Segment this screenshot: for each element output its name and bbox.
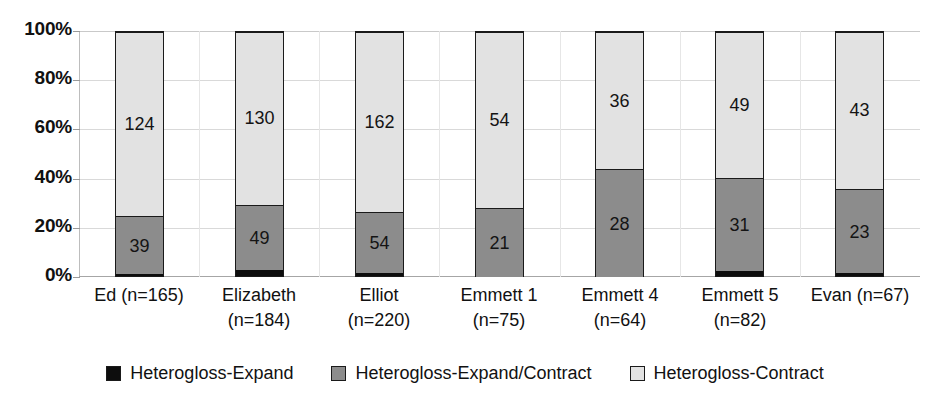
x-axis-label-evan-n-67-: Evan (n=67) <box>800 283 920 308</box>
bar-segment-value-label: 23 <box>849 223 869 241</box>
y-axis-labels: 0%20%40%60%80%100% <box>0 0 72 416</box>
category-separator <box>800 31 801 277</box>
bar-segment-value-label: 130 <box>244 109 274 127</box>
x-axis-label-line1: Evan (n=67) <box>811 285 910 305</box>
legend-label: Heterogloss-Expand/Contract <box>355 363 591 384</box>
y-axis-tick-label-100%: 100% <box>2 18 72 40</box>
bar-segment-value-label: 31 <box>729 216 749 234</box>
y-axis-tick-label-60%: 60% <box>2 116 72 138</box>
bar-segment-heterogloss-contract[interactable]: 43 <box>835 31 884 189</box>
category-separator <box>680 31 681 277</box>
y-axis-tick <box>73 80 80 81</box>
x-axis-label-line1: Elizabeth <box>222 285 296 305</box>
category-separator <box>319 31 320 277</box>
x-axis-label-line1: Ed (n=165) <box>94 285 184 305</box>
x-axis-label-line2: (n=184) <box>199 308 319 333</box>
bar-top-border <box>475 31 524 33</box>
bar-segment-heterogloss-expand-contract[interactable]: 49 <box>235 205 284 270</box>
bar-elizabeth-n-184-[interactable]: 49130 <box>235 31 284 277</box>
bar-segment-heterogloss-expand-contract[interactable]: 39 <box>115 216 164 274</box>
y-axis-tick-label-0%: 0% <box>2 264 72 286</box>
category-separator <box>439 31 440 277</box>
x-axis-label-emmett-4-n-64-: Emmett 4(n=64) <box>560 283 680 333</box>
bar-top-border <box>235 31 284 33</box>
legend-swatch-icon <box>106 366 121 381</box>
bar-top-border <box>715 31 764 33</box>
bar-segment-heterogloss-contract[interactable]: 54 <box>475 31 524 208</box>
bar-segment-value-label: 21 <box>489 234 509 252</box>
bar-segment-heterogloss-contract[interactable]: 162 <box>355 31 404 212</box>
bar-evan-n-67-[interactable]: 2343 <box>835 31 884 277</box>
bar-segment-value-label: 54 <box>489 111 509 129</box>
bar-emmett-1-n-75-[interactable]: 2154 <box>475 31 524 277</box>
bar-top-border <box>835 31 884 33</box>
x-axis-label-line2: (n=220) <box>319 308 439 333</box>
x-axis-label-line2: (n=75) <box>439 308 559 333</box>
legend-swatch-icon <box>630 366 645 381</box>
stacked-bar-chart: 0%20%40%60%80%100% 391244913054162215428… <box>0 0 930 416</box>
y-axis-tick <box>73 228 80 229</box>
bar-segment-value-label: 49 <box>249 229 269 247</box>
legend-item-heterogloss-expand[interactable]: Heterogloss-Expand <box>106 363 293 384</box>
x-axis-category-labels: Ed (n=165)Elizabeth(n=184)Elliot(n=220)E… <box>79 283 920 345</box>
bar-segment-heterogloss-expand[interactable] <box>835 273 884 277</box>
x-axis-label-line2: (n=64) <box>560 308 680 333</box>
bar-ed-n-165-[interactable]: 39124 <box>115 31 164 277</box>
bar-segment-heterogloss-contract[interactable]: 124 <box>115 31 164 216</box>
x-axis-label-elizabeth-n-184-: Elizabeth(n=184) <box>199 283 319 333</box>
bar-segment-value-label: 39 <box>129 237 149 255</box>
x-axis-label-line2: (n=82) <box>680 308 800 333</box>
bar-top-border <box>355 31 404 33</box>
legend-swatch-icon <box>331 366 346 381</box>
x-axis-label-emmett-1-n-75-: Emmett 1(n=75) <box>439 283 559 333</box>
bar-segment-value-label: 162 <box>364 113 394 131</box>
bar-segment-heterogloss-expand[interactable] <box>355 273 404 277</box>
bar-segment-value-label: 36 <box>609 92 629 110</box>
bar-segment-value-label: 28 <box>609 215 629 233</box>
bar-segment-value-label: 49 <box>729 96 749 114</box>
legend-label: Heterogloss-Expand <box>130 363 293 384</box>
chart-legend: Heterogloss-ExpandHeterogloss-Expand/Con… <box>0 356 930 390</box>
bar-segment-heterogloss-contract[interactable]: 130 <box>235 31 284 205</box>
legend-label: Heterogloss-Contract <box>654 363 824 384</box>
x-axis-label-line1: Emmett 5 <box>701 285 778 305</box>
x-axis-label-line1: Elliot <box>359 285 398 305</box>
legend-item-heterogloss-contract[interactable]: Heterogloss-Contract <box>630 363 824 384</box>
bar-segment-heterogloss-expand[interactable] <box>235 270 284 277</box>
x-axis-label-ed-n-165-: Ed (n=165) <box>79 283 199 308</box>
y-axis-tick-label-40%: 40% <box>2 166 72 188</box>
category-separator <box>199 31 200 277</box>
bar-segment-heterogloss-expand-contract[interactable]: 31 <box>715 178 764 271</box>
bar-segment-heterogloss-expand[interactable] <box>715 271 764 277</box>
bar-segment-heterogloss-expand-contract[interactable]: 28 <box>595 169 644 277</box>
plot-area: 3912449130541622154283631492343 <box>79 31 920 277</box>
bar-segment-value-label: 54 <box>369 234 389 252</box>
y-axis-tick <box>73 277 80 278</box>
bar-segment-heterogloss-contract[interactable]: 36 <box>595 31 644 169</box>
x-axis-label-line1: Emmett 1 <box>460 285 537 305</box>
category-separator <box>560 31 561 277</box>
bar-segment-heterogloss-contract[interactable]: 49 <box>715 31 764 178</box>
y-axis-tick <box>73 129 80 130</box>
y-axis-tick <box>73 179 80 180</box>
x-axis-label-line1: Emmett 4 <box>581 285 658 305</box>
bar-segment-heterogloss-expand-contract[interactable]: 23 <box>835 189 884 273</box>
y-axis-tick-label-80%: 80% <box>2 67 72 89</box>
bar-segment-value-label: 43 <box>849 101 869 119</box>
bar-elliot-n-220-[interactable]: 54162 <box>355 31 404 277</box>
bar-emmett-5-n-82-[interactable]: 3149 <box>715 31 764 277</box>
x-axis-label-emmett-5-n-82-: Emmett 5(n=82) <box>680 283 800 333</box>
bar-segment-heterogloss-expand-contract[interactable]: 21 <box>475 208 524 277</box>
legend-item-heterogloss-expand-contract[interactable]: Heterogloss-Expand/Contract <box>331 363 591 384</box>
y-axis-tick <box>73 31 80 32</box>
bar-top-border <box>115 31 164 33</box>
bar-top-border <box>595 31 644 33</box>
x-axis-label-elliot-n-220-: Elliot(n=220) <box>319 283 439 333</box>
bar-emmett-4-n-64-[interactable]: 2836 <box>595 31 644 277</box>
bar-segment-heterogloss-expand-contract[interactable]: 54 <box>355 212 404 272</box>
bar-segment-heterogloss-expand[interactable] <box>115 274 164 277</box>
bar-segment-value-label: 124 <box>124 115 154 133</box>
y-axis-tick-label-20%: 20% <box>2 215 72 237</box>
